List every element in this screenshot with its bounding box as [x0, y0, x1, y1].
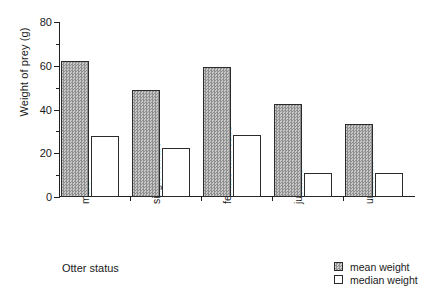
y-tick-mark [56, 175, 59, 176]
x-axis-title: Otter status [62, 262, 119, 274]
y-tick-mark [54, 153, 59, 154]
legend-item-mean: mean weight [334, 260, 418, 273]
y-axis-title: Weight of prey (g) [18, 2, 30, 142]
y-tick-mark [54, 22, 59, 23]
plot-area: 020406080 [59, 22, 414, 197]
y-tick-label: 20 [40, 147, 52, 159]
bar-mean [61, 61, 89, 197]
y-tick-mark [54, 197, 59, 198]
bar-mean [345, 124, 373, 197]
x-tick-mark [130, 197, 131, 201]
legend: mean weight median weight [334, 260, 418, 286]
y-tick-label: 40 [40, 104, 52, 116]
x-tick-mark [343, 197, 344, 201]
y-tick-label: 80 [40, 16, 52, 28]
x-tick-mark [272, 197, 273, 201]
chart-figure: Weight of prey (g) 020406080 malesingle … [0, 0, 440, 297]
bar-median [375, 173, 403, 197]
legend-swatch-mean-icon [334, 262, 343, 271]
y-tick-label: 60 [40, 60, 52, 72]
y-tick-mark [56, 44, 59, 45]
bar-median [162, 148, 190, 197]
bar-mean [274, 104, 302, 197]
bar-mean [132, 90, 160, 197]
legend-swatch-median-icon [334, 275, 343, 284]
y-tick-mark [56, 88, 59, 89]
legend-label-median: median weight [350, 274, 418, 286]
y-tick-mark [56, 131, 59, 132]
bar-median [233, 135, 261, 197]
bar-median [91, 136, 119, 197]
y-tick-label: 0 [46, 191, 52, 203]
y-tick-mark [54, 66, 59, 67]
y-tick-mark [54, 110, 59, 111]
legend-item-median: median weight [334, 273, 418, 286]
bar-median [304, 173, 332, 197]
bar-mean [203, 67, 231, 197]
legend-label-mean: mean weight [350, 261, 410, 273]
x-tick-mark [201, 197, 202, 201]
